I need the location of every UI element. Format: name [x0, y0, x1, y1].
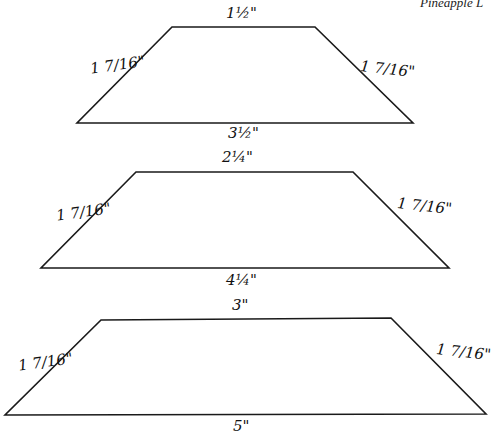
- page-header: Pineapple L: [420, 0, 483, 9]
- trapezoid-1-top-label: 1½": [226, 6, 257, 21]
- trapezoid-2: [41, 172, 449, 268]
- trapezoid-3: [5, 318, 486, 415]
- trapezoid-2-top-label: 2¼": [222, 150, 253, 165]
- trapezoid-1-bottom-label: 3½": [228, 126, 259, 141]
- trapezoid-3-bottom-label: 5": [233, 419, 249, 434]
- trapezoid-2-bottom-label: 4¼": [226, 273, 257, 288]
- trapezoid-3-top-label: 3": [232, 298, 248, 313]
- pattern-sheet: Pineapple L 1½" 1 7/16" 1 7/16" 3½" 2¼" …: [0, 0, 492, 439]
